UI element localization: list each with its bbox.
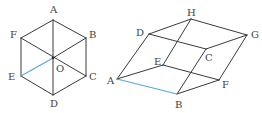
vertex-label-b: B — [89, 29, 96, 40]
highlighted-edge-AB — [117, 79, 177, 94]
vertex-label-f: F — [222, 79, 229, 90]
diagram-canvas: ABCDEFO HDGCEAFB — [0, 0, 262, 113]
parallelepiped: HDGCEAFB — [106, 7, 259, 110]
edge-GH — [191, 19, 247, 35]
edge-DE — [21, 76, 53, 95]
edge-EH — [163, 19, 191, 65]
vertex-label-a: A — [106, 75, 115, 86]
center-point-o — [52, 57, 55, 60]
regular-hexagon: ABCDEFO — [8, 4, 97, 109]
edge-BO — [53, 38, 86, 58]
vertex-label-f: F — [10, 29, 17, 40]
edge-FA — [21, 20, 53, 38]
edge-FG — [219, 35, 247, 80]
edge-BF — [177, 80, 219, 94]
vertex-label-g: G — [251, 29, 259, 40]
vertex-label-d: D — [136, 27, 144, 38]
vertex-label-c: C — [89, 71, 97, 82]
edge-EA — [117, 65, 163, 79]
vertex-label-e: E — [8, 71, 15, 82]
edge-AB — [53, 20, 86, 38]
vertex-label-e: E — [154, 56, 161, 67]
vertex-label-c: C — [205, 52, 213, 63]
highlighted-edge-EO — [21, 58, 53, 76]
edge-CD — [53, 76, 86, 95]
vertex-label-o: O — [56, 63, 64, 74]
vertex-label-b: B — [175, 99, 182, 110]
edge-AD — [117, 34, 149, 79]
vertex-label-h: H — [187, 7, 196, 18]
edge-BC — [177, 49, 206, 94]
edge-HD — [149, 19, 191, 34]
vertex-label-d: D — [50, 98, 58, 109]
edge-CG — [206, 35, 247, 49]
vertex-label-a: A — [49, 4, 58, 15]
